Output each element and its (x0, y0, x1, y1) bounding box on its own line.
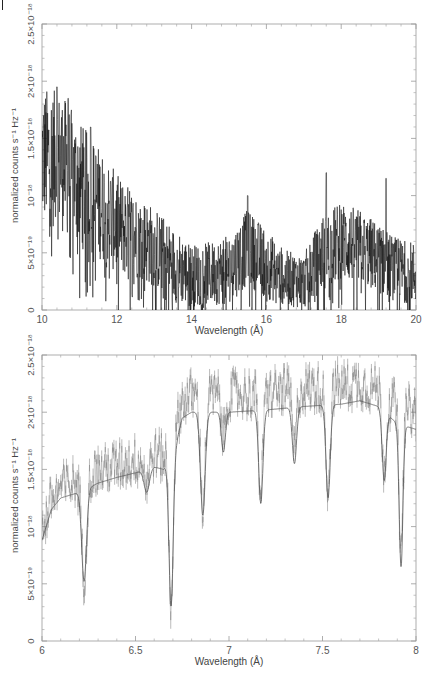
chart-bottom-ytick-label: 2.5×10⁻¹⁸ (25, 334, 36, 376)
chart-bottom-axes: 66.577.5805×10⁻¹⁹10⁻¹⁸1.5×10⁻¹⁸2×10⁻¹⁸2.… (25, 334, 419, 656)
chart-bottom-xtick-label: 6 (39, 645, 45, 656)
chart-bottom-ytick-label: 0 (25, 638, 36, 643)
chart-bottom-xtick-label: 8 (413, 645, 419, 656)
chart-bottom-xtick-label: 7.5 (316, 645, 330, 656)
chart-bottom-model-line (42, 401, 416, 606)
chart-bottom-plot: 66.577.5805×10⁻¹⁹10⁻¹⁸1.5×10⁻¹⁸2×10⁻¹⁸2.… (0, 0, 439, 678)
chart-bottom-xlabel: Wavelength (Å) (179, 656, 279, 667)
chart-bottom-ylabel: normalized counts s⁻¹ Hz⁻¹ (9, 426, 20, 566)
chart-bottom-panel: 66.577.5805×10⁻¹⁹10⁻¹⁸1.5×10⁻¹⁸2×10⁻¹⁸2.… (0, 0, 439, 678)
chart-bottom-ytick-label: 10⁻¹⁸ (25, 515, 36, 538)
chart-bottom-observed-series (42, 356, 416, 629)
chart-bottom-ytick-label: 5×10⁻¹⁹ (25, 567, 36, 601)
chart-bottom-xtick-label: 7 (226, 645, 232, 656)
chart-bottom-ytick-label: 1.5×10⁻¹⁸ (25, 449, 36, 491)
chart-bottom-ytick-label: 2×10⁻¹⁸ (25, 395, 36, 429)
chart-bottom-xtick-label: 6.5 (129, 645, 143, 656)
